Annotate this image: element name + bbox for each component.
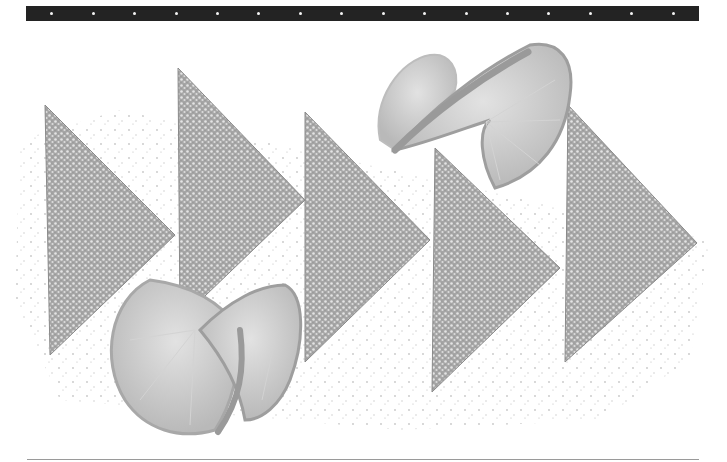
sprocket-hole xyxy=(340,12,343,15)
sprocket-hole xyxy=(382,12,385,15)
sprocket-hole xyxy=(175,12,178,15)
sprocket-hole xyxy=(589,12,592,15)
sprocket-hole xyxy=(257,12,260,15)
sprocket-hole xyxy=(423,12,426,15)
sprocket-hole xyxy=(133,12,136,15)
sprocket-hole xyxy=(672,12,675,15)
sprocket-hole xyxy=(630,12,633,15)
food-photo xyxy=(0,24,727,456)
sprocket-hole xyxy=(547,12,550,15)
sprocket-hole xyxy=(506,12,509,15)
film-strip-header xyxy=(26,6,699,21)
sprocket-hole xyxy=(92,12,95,15)
lemon-slice-upper xyxy=(379,44,571,188)
sprocket-hole xyxy=(216,12,219,15)
sprocket-hole xyxy=(465,12,468,15)
sprocket-hole xyxy=(50,12,53,15)
sprocket-hole xyxy=(299,12,302,15)
bottom-rule xyxy=(27,459,699,460)
